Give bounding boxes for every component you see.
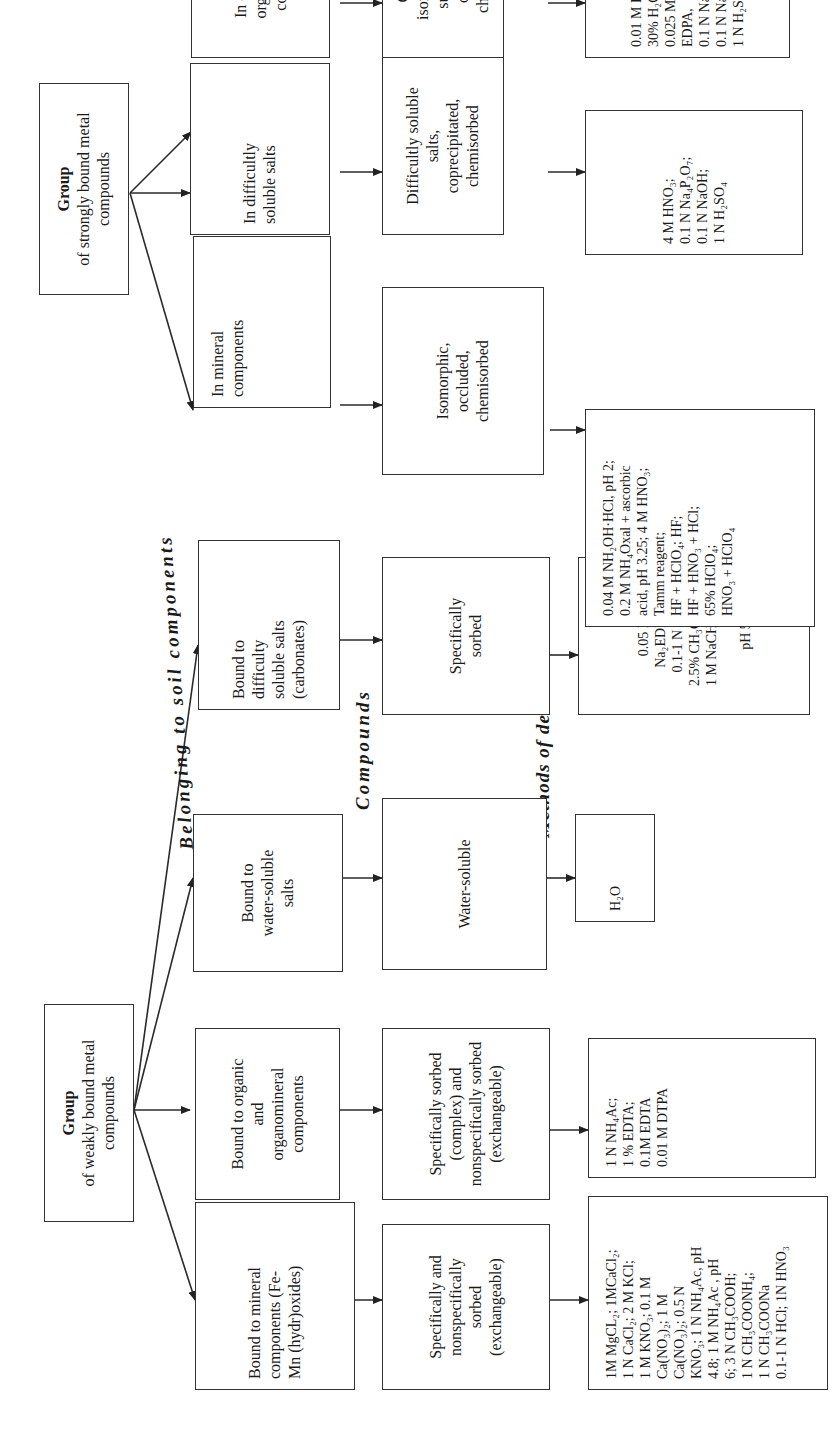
method-box-col1: 1M MgCL₂; 1MCaCl₂; 1 N CaCl₂; 2 M KCl; 1… (588, 1196, 828, 1390)
method-box-col6: 4 M HNO₃; 0.1 N Na₄P₂O₇; 0.1 N NaOH; 1 N… (585, 110, 803, 255)
compound-box-specifically-nonspecifically-sorbed: Specifically and nonspecifically sorbed … (382, 1224, 550, 1390)
section-label-compounds: Compounds (352, 689, 374, 810)
compound-box-isomorphic-occluded: Isomorphic, occluded, chemisorbed (382, 287, 544, 475)
method-box-col5: 0.04 M NH₂OH·HCl, pH 2; 0.2 M NH₄Oxal + … (585, 409, 815, 627)
component-box-organic-organomineral: Bound to organic and organomineral compo… (195, 1028, 340, 1200)
component-box-carbonates: Bound to difficulty soluble salts (carbo… (198, 540, 340, 710)
arrow-weak-to-col1 (134, 1110, 195, 1300)
compound-box-water-soluble: Water-soluble (382, 798, 547, 970)
component-box-organic-organomineral-strong: In organic and organomineral components (191, 0, 330, 58)
group-title: Group (54, 112, 74, 265)
method-box-col2: 1 N NH₄Ac; 1 % EDTA; 0.1M EDTA 0.01 M DT… (588, 1038, 816, 1178)
arrow-strong-to-col7 (130, 132, 191, 193)
method-box-col3: H₂O (575, 814, 655, 922)
soil-metal-fractionation-diagram: Group of weakly bound metal compounds Gr… (0, 0, 832, 1450)
method-box-col7: 0.01 M DTPA, 30% H₂O₂, 0.025 M NH4- EDPA… (585, 0, 790, 58)
arrow-weak-to-col3 (134, 878, 193, 1110)
group-title: Group (59, 1039, 79, 1186)
component-box-difficultly-soluble-salts: In difficultly soluble salts (190, 63, 330, 235)
compound-box-chelated: Chelated, isomorphically substituted, oc… (382, 0, 504, 58)
compound-box-coprecipitated: Difficultly soluble salts, coprecipitate… (382, 57, 504, 235)
group-strongly-bound-box: Group of strongly bound metal compounds (39, 83, 129, 295)
component-box-mineral: In mineral components (193, 236, 331, 408)
group-weakly-bound-box: Group of weakly bound metal compounds (44, 1004, 134, 1222)
component-box-water-soluble-salts: Bound to water-soluble salts (193, 814, 343, 972)
compound-box-specifically-sorbed: Specifically sorbed (382, 557, 550, 715)
component-box-mineral-fe-mn: Bound to mineral components (Fe- Mn (hyd… (195, 1202, 355, 1390)
arrow-strong-to-col5 (130, 193, 193, 410)
compound-box-complex-exchangeable: Specifically sorbed (complex) and nonspe… (382, 1028, 550, 1200)
